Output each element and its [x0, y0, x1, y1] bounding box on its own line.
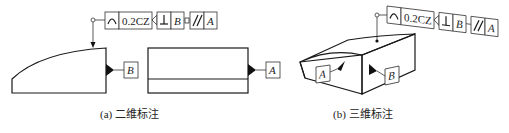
- part-front-view: [12, 48, 106, 93]
- feature-control-frame: 0.2CZ B A: [105, 12, 217, 29]
- caption-b: (b) 三维标注: [333, 107, 393, 121]
- datum-ref-b: B: [174, 15, 181, 27]
- leader-dot-icon: [375, 39, 378, 42]
- datum-triangle-icon: [248, 64, 256, 76]
- fcf-leader: [91, 18, 106, 48]
- leader-arrowhead-icon: [91, 42, 96, 48]
- svg-text:A: A: [487, 21, 495, 34]
- part-isometric-view: [300, 34, 415, 94]
- datum-triangle-icon: [337, 61, 345, 71]
- svg-text:B: B: [456, 18, 463, 31]
- datum-triangle-icon: [369, 64, 377, 75]
- svg-text:A: A: [318, 68, 326, 81]
- datum-triangle-icon: [106, 64, 114, 76]
- part-side-view: [148, 48, 248, 93]
- datum-ref-a: A: [206, 15, 214, 27]
- panel-b-3d: 0.2CZ B A: [300, 6, 498, 121]
- svg-text:B: B: [127, 64, 134, 76]
- panel-a-2d: 0.2CZ B A B: [12, 12, 280, 121]
- figure-canvas: 0.2CZ B A B: [0, 0, 509, 133]
- caption-a: (a) 二维标注: [100, 107, 159, 121]
- svg-text:A: A: [268, 64, 276, 76]
- tolerance-value: 0.2CZ: [122, 15, 150, 27]
- svg-text:B: B: [388, 69, 395, 82]
- feature-control-frame-3d: 0.2CZ B A: [387, 6, 498, 37]
